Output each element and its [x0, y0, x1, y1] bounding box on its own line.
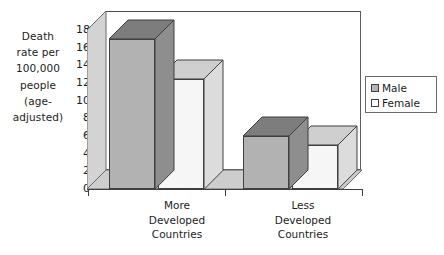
y-axis-title-line-3: 100,000 [2, 60, 74, 76]
legend-swatch-female-icon [371, 99, 379, 107]
legend-label-male: Male [382, 83, 407, 94]
x-category-label-more-developed-countries: More Developed Countries [112, 198, 242, 242]
legend-item-female: Female [371, 96, 436, 110]
x-axis-tick-right [362, 189, 363, 196]
y-axis-title-line-4: people [2, 77, 74, 93]
x-cat-1-line-2: Developed [238, 213, 368, 228]
legend-item-male: Male [371, 81, 436, 95]
legend-label-female: Female [382, 98, 420, 109]
y-axis-title-line-1: Death [2, 28, 74, 44]
legend-swatch-male-icon [371, 84, 379, 92]
y-axis-title-line-2: rate per [2, 44, 74, 60]
x-cat-0-line-2: Developed [112, 213, 242, 228]
x-axis-tick-left [88, 189, 89, 196]
y-axis-title-line-6: adjusted) [2, 109, 74, 125]
x-cat-1-line-3: Countries [238, 227, 368, 242]
bar-front-face [109, 39, 155, 189]
x-axis-tick-mid [225, 189, 226, 196]
y-axis-title-line-5: (age- [2, 93, 74, 109]
bars-layer [87, 11, 362, 189]
x-cat-1-line-1: Less [238, 198, 368, 213]
legend: Male Female [365, 76, 437, 113]
y-axis-title: Death rate per 100,000 people (age- adju… [2, 28, 74, 125]
bar-male-group-1 [243, 117, 308, 189]
bar-male-group-0 [109, 20, 174, 189]
bar-chart: Death rate per 100,000 people (age- adju… [0, 0, 444, 255]
x-cat-0-line-3: Countries [112, 227, 242, 242]
bar-front-face [243, 136, 289, 189]
x-cat-0-line-1: More [112, 198, 242, 213]
x-category-label-less-developed-countries: Less Developed Countries [238, 198, 368, 242]
